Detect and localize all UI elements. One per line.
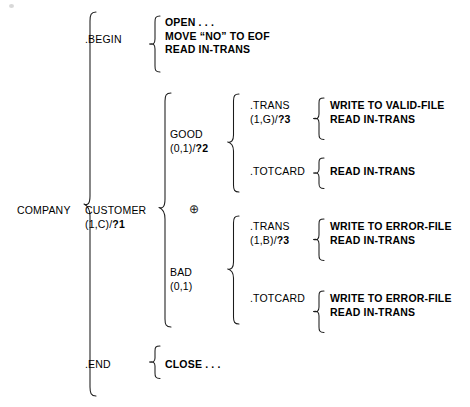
bad-totcard-actions: WRITE TO ERROR-FILE READ IN-TRANS bbox=[330, 292, 452, 319]
good-trans-sublabel: (1,G)/ bbox=[250, 113, 278, 125]
good-totcard-name: .TOTCARD bbox=[250, 165, 305, 177]
begin-action-2: MOVE “NO” TO EOF bbox=[165, 30, 270, 44]
end-action-1: CLOSE . . . bbox=[165, 358, 221, 372]
level1-label-customer: CUSTOMER (1,C)/?1 bbox=[85, 204, 146, 231]
bad-name: BAD bbox=[170, 266, 192, 278]
customer-sublabel: (1,C)/ bbox=[85, 218, 112, 230]
bad-totcard-action-1: WRITE TO ERROR-FILE bbox=[330, 292, 452, 306]
level1-label-begin: .BEGIN bbox=[85, 33, 122, 47]
scan-artifact-speck bbox=[9, 4, 14, 8]
end-actions: CLOSE . . . bbox=[165, 358, 221, 372]
brace-customer bbox=[157, 91, 173, 329]
brace-bad-children bbox=[226, 214, 241, 326]
bad-trans-suffix: ?3 bbox=[277, 234, 290, 246]
level1-label-end: .END bbox=[85, 358, 111, 372]
node-label-good-trans: .TRANS (1,G)/?3 bbox=[250, 99, 291, 126]
bad-sublabel: (0,1) bbox=[170, 280, 193, 292]
good-name: GOOD bbox=[170, 128, 203, 140]
customer-suffix: ?1 bbox=[112, 218, 125, 230]
node-label-bad-trans: .TRANS (1,B)/?3 bbox=[250, 220, 290, 247]
brace-good-totcard-actions bbox=[312, 156, 326, 192]
good-totcard-action-1: READ IN-TRANS bbox=[330, 165, 415, 179]
good-trans-action-2: READ IN-TRANS bbox=[330, 113, 444, 127]
xor-symbol: ⊕ bbox=[189, 203, 199, 215]
good-suffix: ?2 bbox=[196, 142, 209, 154]
bad-trans-name: .TRANS bbox=[250, 220, 290, 232]
brace-bad-trans-actions bbox=[312, 217, 326, 263]
good-trans-name: .TRANS bbox=[250, 99, 290, 111]
bad-trans-action-1: WRITE TO ERROR-FILE bbox=[330, 220, 452, 234]
good-sublabel: (0,1)/ bbox=[170, 142, 196, 154]
customer-name: CUSTOMER bbox=[85, 204, 146, 216]
good-trans-suffix: ?3 bbox=[278, 113, 291, 125]
branch-label-bad: BAD (0,1) bbox=[170, 266, 193, 293]
good-trans-actions: WRITE TO VALID-FILE READ IN-TRANS bbox=[330, 99, 444, 126]
begin-action-3: READ IN-TRANS bbox=[165, 43, 270, 57]
brace-bad-totcard-actions bbox=[312, 289, 326, 335]
bad-totcard-action-2: READ IN-TRANS bbox=[330, 306, 452, 320]
bad-trans-actions: WRITE TO ERROR-FILE READ IN-TRANS bbox=[330, 220, 452, 247]
brace-good-trans-actions bbox=[312, 96, 326, 142]
branch-label-good: GOOD (0,1)/?2 bbox=[170, 128, 208, 155]
node-label-good-totcard: .TOTCARD bbox=[250, 165, 305, 179]
good-totcard-actions: READ IN-TRANS bbox=[330, 165, 415, 179]
begin-actions: OPEN . . . MOVE “NO” TO EOF READ IN-TRAN… bbox=[165, 16, 270, 57]
root-label: COMPANY bbox=[17, 204, 71, 218]
brace-begin-actions bbox=[148, 14, 162, 74]
bad-totcard-name: .TOTCARD bbox=[250, 292, 305, 304]
begin-action-1: OPEN . . . bbox=[165, 16, 270, 30]
brace-end-actions bbox=[148, 344, 162, 384]
good-trans-action-1: WRITE TO VALID-FILE bbox=[330, 99, 444, 113]
bad-trans-action-2: READ IN-TRANS bbox=[330, 234, 452, 248]
bad-trans-sublabel: (1,B)/ bbox=[250, 234, 277, 246]
node-label-bad-totcard: .TOTCARD bbox=[250, 292, 305, 306]
warnier-orr-diagram: COMPANY .BEGIN CUSTOMER (1,C)/?1 .END OP… bbox=[0, 0, 470, 407]
brace-good-children bbox=[226, 92, 241, 194]
